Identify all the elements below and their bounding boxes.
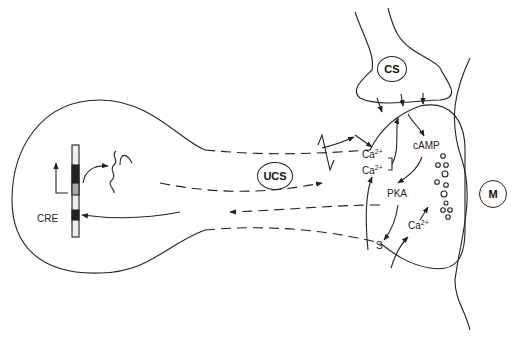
ca-label-2: Ca2+ [362, 164, 383, 176]
s-label: S [376, 241, 383, 251]
pka-label: PKA [387, 189, 407, 199]
synaptic-vesicles [435, 154, 453, 220]
camp-label: cAMP [413, 141, 440, 151]
mrna-transport-dashed [160, 183, 322, 191]
ca-label-3: Ca2+ [408, 219, 429, 231]
ucs-node: UCS [257, 162, 293, 190]
mrna-squiggle [110, 151, 116, 193]
axon-lower-dashed [205, 228, 380, 243]
motor-neuron-boundary [454, 58, 470, 330]
signaling-diagram: CS UCS M cAMP PKA S CRE Ca2+ Ca2+ Ca2+ [0, 0, 517, 343]
pka-to-nucleus-dashed [230, 205, 380, 212]
axon-upper-dashed [205, 150, 370, 154]
cs-node: CS [377, 56, 407, 82]
cre-label: CRE [37, 214, 58, 224]
ca-label-1: Ca2+ [362, 148, 383, 160]
cell-body-outline [12, 100, 205, 273]
terminal-outline [370, 105, 465, 269]
cs-neuron-outline [355, 8, 452, 103]
m-node: M [479, 180, 507, 208]
